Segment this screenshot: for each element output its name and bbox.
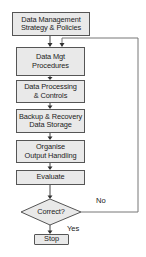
- node-data-processing-controls: Data Processing & Controls: [16, 80, 85, 103]
- edge-label-yes: Yes: [67, 224, 79, 233]
- node-evaluate: Evaluate: [16, 170, 85, 185]
- node-stop: Stop: [34, 234, 69, 245]
- node-correct-decision-label: Correct?: [26, 206, 76, 218]
- node-backup-recovery: Backup & Recovery Data Storage: [16, 109, 85, 133]
- edge-label-no: No: [96, 196, 106, 205]
- node-organise-output: Organise Output Handling: [16, 140, 85, 163]
- node-data-management-strategy: Data Management Strategy & Policies: [12, 12, 90, 36]
- node-data-mgt-procedures: Data Mgt Procedures: [16, 47, 85, 76]
